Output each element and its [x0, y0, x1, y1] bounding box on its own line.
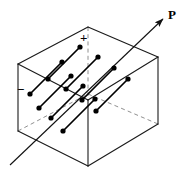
dipole-4-negative-dot [60, 128, 65, 133]
p-vector-label: P [168, 8, 176, 21]
dipole-8-negative-dot [93, 108, 98, 113]
cube-edge-top-back-right [88, 27, 158, 57]
dipole-group [27, 44, 130, 133]
dipole-4-positive-dot [92, 96, 97, 101]
dipole-7-stem [82, 68, 114, 100]
dipole-5-positive-dot [77, 44, 82, 49]
cube-edge-top-front-right [88, 57, 158, 100]
dipole-6-positive-dot [95, 54, 100, 59]
figure-canvas [0, 0, 191, 181]
dipole-1-negative-dot [27, 91, 32, 96]
cube-hidden-edge-bottom-back-left [18, 94, 88, 131]
dipole-5-negative-dot [45, 76, 50, 81]
dipole-6-negative-dot [63, 86, 68, 91]
dipole-5-stem [48, 47, 80, 79]
dipole-3-positive-dot [80, 83, 85, 88]
cube-edge-bottom-front-right [88, 124, 158, 166]
cube-edge-top-back-left [18, 27, 88, 64]
cube-edge-bottom-front-left [18, 131, 88, 166]
polarization-figure: P + − [0, 0, 191, 181]
dipole-3-negative-dot [48, 115, 53, 120]
dipole-2-negative-dot [36, 105, 41, 110]
dipole-8-positive-dot [125, 76, 130, 81]
negative-charge-label: − [17, 83, 24, 96]
dipole-5 [45, 44, 82, 81]
dipole-7-positive-dot [111, 65, 116, 70]
dipole-7-negative-dot [79, 97, 84, 102]
dipole-4-stem [63, 99, 95, 131]
dipole-8-stem [96, 79, 128, 111]
cube-solid-edges [18, 27, 158, 166]
positive-charge-label: + [80, 31, 87, 44]
dipole-2-positive-dot [68, 73, 73, 78]
dipole-2 [36, 73, 73, 110]
